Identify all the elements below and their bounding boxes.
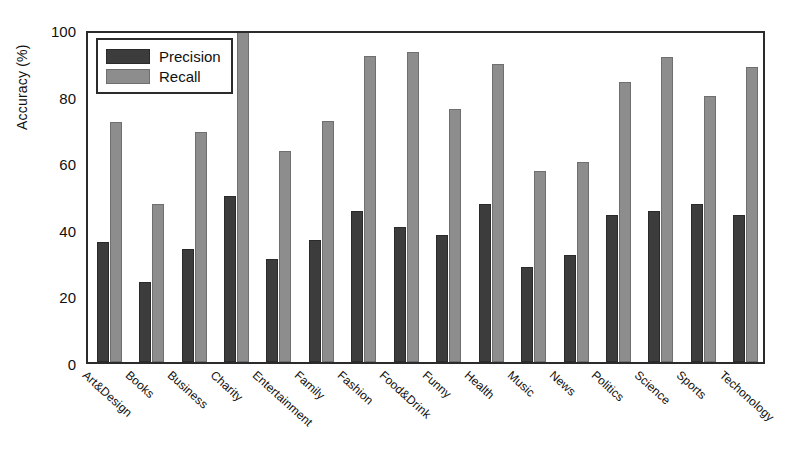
bar-recall-techonology (746, 67, 758, 362)
y-axis-tick-label: 80 (16, 89, 76, 106)
bar-precision-techonology (733, 215, 745, 362)
legend-entry: Precision (106, 46, 221, 66)
legend-label: Precision (159, 48, 221, 65)
x-axis-category-label: Politics (589, 368, 627, 404)
bar-precision-politics (606, 215, 618, 362)
bar-precision-sports (691, 204, 703, 362)
legend-swatch-recall (106, 69, 150, 84)
bar-precision-health (479, 204, 491, 362)
bar-recall-family (322, 121, 334, 362)
bar-recall-funny (449, 109, 461, 362)
bar-precision-science (648, 211, 660, 363)
bar-recall-news (577, 162, 589, 362)
bar-chart-figure: Accuracy (%) 020406080100 Art&DesignBook… (0, 0, 798, 473)
bar-recall-science (661, 57, 673, 362)
bar-precision-family (309, 240, 321, 362)
bar-precision-business (182, 249, 194, 362)
x-axis-category-label: Techonology (716, 368, 776, 424)
x-axis-category-label: Health (462, 368, 498, 402)
bar-recall-business (195, 132, 207, 362)
bar-precision-books (139, 282, 151, 362)
y-axis-tick-label: 0 (16, 356, 76, 373)
y-axis-tick-label: 20 (16, 289, 76, 306)
bar-recall-art-design (110, 122, 122, 362)
bar-recall-sports (704, 96, 716, 362)
bar-recall-entertainment (279, 151, 291, 362)
bar-recall-music (534, 171, 546, 362)
bar-precision-entertainment (266, 259, 278, 362)
x-axis-category-label: Funny (419, 368, 454, 401)
x-axis-category-label: Books (122, 368, 157, 401)
y-axis-title: Accuracy (%) (14, 0, 30, 130)
bar-precision-funny (436, 235, 448, 362)
bar-recall-politics (619, 82, 631, 362)
bar-precision-news (564, 255, 576, 362)
bar-precision-art-design (97, 242, 109, 362)
x-axis-category-label: Sports (674, 368, 710, 402)
x-axis-category-label: Science (632, 368, 674, 407)
bar-precision-charity (224, 196, 236, 363)
bar-recall-charity (237, 31, 249, 362)
y-axis-tick-label: 40 (16, 222, 76, 239)
x-axis-category-label: Family (292, 368, 328, 402)
bar-precision-fashion (351, 211, 363, 363)
x-axis-category-label: News (547, 368, 579, 399)
bar-precision-music (521, 267, 533, 362)
legend-label: Recall (159, 68, 201, 85)
bar-recall-health (492, 64, 504, 362)
bar-precision-food-drink (394, 227, 406, 362)
legend-entry: Recall (106, 66, 221, 86)
x-axis-category-label: Music (504, 368, 537, 400)
y-axis-tick-label: 100 (16, 23, 76, 40)
bar-recall-books (152, 204, 164, 362)
bar-recall-fashion (364, 56, 376, 362)
chart-legend: PrecisionRecall (96, 38, 233, 94)
x-axis-category-label: Business (165, 368, 211, 412)
x-axis-category-label: Charity (207, 368, 245, 404)
y-axis-tick-label: 60 (16, 156, 76, 173)
x-axis-category-label: Fashion (334, 368, 376, 407)
bar-recall-food-drink (407, 52, 419, 362)
legend-swatch-precision (106, 49, 150, 64)
